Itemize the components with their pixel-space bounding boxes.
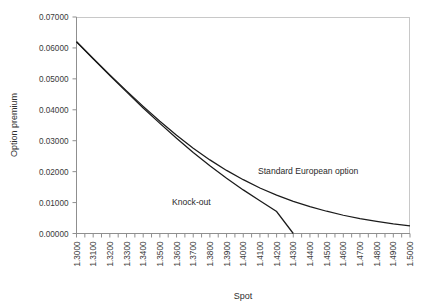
chart-canvas: 0.000000.010000.020000.030000.040000.050… [0,0,429,308]
x-tick-label: 1.4000 [239,241,248,266]
y-tick-label: 0.03000 [39,137,69,146]
y-tick-label: 0.00000 [39,230,69,239]
x-tick-label: 1.3700 [189,241,198,266]
y-tick-group: 0.000000.010000.020000.030000.040000.050… [39,13,77,239]
x-tick-label: 1.3100 [89,241,98,266]
x-tick-label: 1.4400 [306,241,315,266]
annotation-knock-out: Knock-out [172,197,211,207]
y-tick-label: 0.02000 [39,168,69,177]
x-tick-label: 1.4300 [289,241,298,266]
x-axis-title: Spot [234,291,253,301]
option-premium-chart: 0.000000.010000.020000.030000.040000.050… [0,0,429,308]
x-tick-label: 1.4500 [323,241,332,266]
x-tick-label: 1.3200 [106,241,115,266]
plot-frame [76,18,410,234]
x-axis: 1.30001.31001.32001.33001.34001.35001.36… [73,234,416,267]
x-tick-label: 1.4900 [389,241,398,266]
series-line-standard-european-option [77,42,411,226]
y-tick-label: 0.01000 [39,199,69,208]
x-tick-label: 1.4100 [256,241,265,266]
x-tick-label: 1.3800 [206,241,215,266]
x-tick-label: 1.5000 [406,241,415,266]
y-tick-label: 0.07000 [39,13,69,22]
y-tick-label: 0.05000 [39,75,69,84]
x-tick-label: 1.4600 [339,241,348,266]
y-tick-label: 0.04000 [39,106,69,115]
x-tick-label: 1.4800 [373,241,382,266]
x-tick-label: 1.3600 [173,241,182,266]
x-tick-label: 1.3900 [223,241,232,266]
x-tick-label: 1.3400 [139,241,148,266]
annotation-standard-european-option: Standard European option [258,166,359,176]
x-tick-label: 1.4700 [356,241,365,266]
x-tick-label: 1.3300 [123,241,132,266]
x-tick-group: 1.30001.31001.32001.33001.34001.35001.36… [73,234,416,267]
y-axis: 0.000000.010000.020000.030000.040000.050… [39,13,77,239]
x-tick-label: 1.3500 [156,241,165,266]
y-axis-title: Option premium [9,93,19,157]
y-tick-label: 0.06000 [39,44,69,53]
x-tick-label: 1.3000 [73,241,82,266]
x-tick-label: 1.4200 [273,241,282,266]
data-curves [77,42,411,234]
